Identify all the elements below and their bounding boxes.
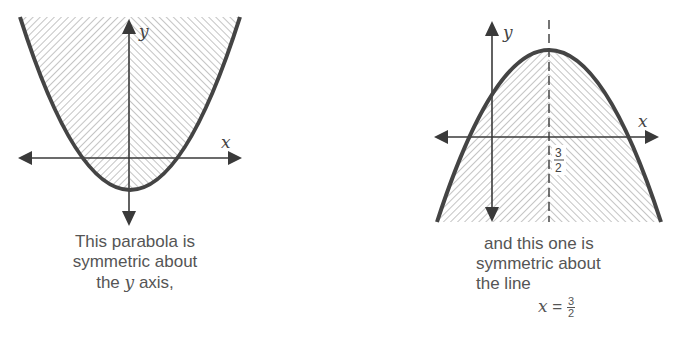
right-y-axis-arrow-up-icon [485, 21, 499, 36]
left-caption-line2: symmetric about [50, 252, 220, 272]
left-caption-line3: the y axis, [50, 272, 220, 293]
fraction: 3 2 [567, 296, 575, 319]
right-parabola-figure: y x 3 2 [420, 0, 678, 230]
left-caption-line1: This parabola is [50, 232, 220, 252]
right-caption-line3: the line [476, 274, 656, 294]
left-x-axis-arrow-right-icon [228, 151, 242, 165]
right-x-axis-arrow-left-icon [434, 130, 448, 144]
right-caption: and this one is symmetric about the line… [476, 234, 656, 319]
right-caption-line2: symmetric about [476, 254, 656, 274]
left-y-axis-arrow-down-icon [122, 211, 136, 226]
right-x-label: x [638, 111, 648, 131]
left-x-axis-arrow-left-icon [18, 151, 32, 165]
symmetry-equation: x = 3 2 [476, 296, 656, 319]
right-x-axis-arrow-right-icon [645, 130, 659, 144]
left-parabola-figure: y x [0, 0, 260, 230]
left-hatched-region [0, 0, 260, 230]
caption-y-variable: y [125, 272, 135, 292]
left-y-label: y [138, 21, 149, 41]
tick-denominator: 2 [555, 161, 562, 175]
right-caption-line1: and this one is [476, 234, 656, 254]
tick-numerator: 3 [555, 146, 562, 160]
left-caption: This parabola is symmetric about the y a… [50, 232, 220, 293]
right-y-label: y [502, 22, 513, 42]
left-x-label: x [221, 132, 231, 152]
